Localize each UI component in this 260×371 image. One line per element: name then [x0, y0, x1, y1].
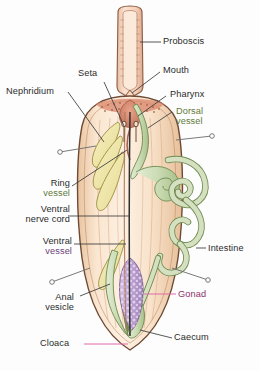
label-gonad-text: Gonad	[178, 289, 206, 299]
label-cloaca: Cloaca	[40, 338, 69, 348]
label-ventral-nerve-cord-text: Ventral	[41, 204, 70, 214]
label-ventral-nerve-cord-text2: nerve cord	[2, 214, 70, 224]
label-dorsal-vessel-text: Dorsal	[176, 106, 203, 116]
label-ventral-vessel: Ventral vessel	[8, 236, 72, 256]
label-anal-vesicle-text2: vesicle	[10, 302, 74, 312]
label-seta: Seta	[78, 68, 97, 78]
label-dorsal-vessel: Dorsal vessel	[176, 106, 203, 126]
label-pharynx-text: Pharynx	[170, 89, 204, 99]
label-seta-text: Seta	[78, 68, 97, 78]
label-ventral-vessel-text: Ventral	[43, 236, 72, 246]
label-gonad: Gonad	[178, 289, 206, 299]
label-pharynx: Pharynx	[170, 89, 204, 99]
label-anal-vesicle-text: Anal	[55, 292, 74, 302]
label-intestine: Intestine	[208, 243, 244, 253]
label-anal-vesicle: Anal vesicle	[10, 292, 74, 312]
label-intestine-text: Intestine	[208, 243, 244, 253]
label-ventral-nerve-cord: Ventral nerve cord	[2, 204, 70, 224]
label-ring-vessel-text: Ring	[51, 178, 70, 188]
label-caecum: Caecum	[174, 332, 209, 342]
label-ring-vessel: Ring vessel	[12, 178, 70, 198]
proboscis-structure	[117, 6, 143, 99]
label-ring-vessel-text2: vessel	[12, 188, 70, 198]
label-nephridium-text: Nephridium	[6, 86, 54, 96]
label-mouth: Mouth	[163, 65, 189, 75]
label-nephridium: Nephridium	[6, 86, 54, 96]
ventral-nerve-cord-line	[129, 112, 130, 336]
label-proboscis-text: Proboscis	[163, 36, 204, 46]
label-ventral-vessel-text2: vessel	[8, 246, 72, 256]
label-mouth-text: Mouth	[163, 65, 189, 75]
label-proboscis: Proboscis	[163, 36, 204, 46]
label-cloaca-text: Cloaca	[40, 338, 69, 348]
label-caecum-text: Caecum	[174, 332, 209, 342]
label-dorsal-vessel-text2: vessel	[176, 116, 203, 126]
